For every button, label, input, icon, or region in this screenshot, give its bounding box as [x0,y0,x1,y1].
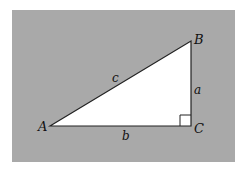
vertex-label-c: C [194,121,204,136]
right-triangle-diagram: A B C a b c [0,0,249,169]
vertex-label-a: A [37,119,47,134]
side-label-b: b [122,129,130,143]
vertex-label-b: B [193,32,204,47]
side-label-c: c [112,71,119,85]
side-label-a: a [194,83,201,97]
